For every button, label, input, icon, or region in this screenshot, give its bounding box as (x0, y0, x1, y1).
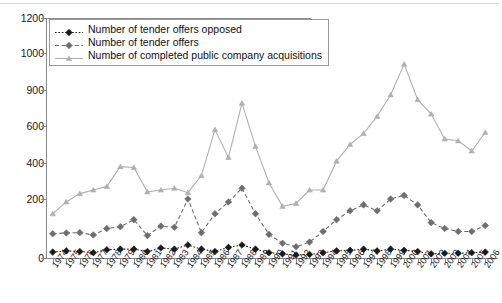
data-point-marker (131, 246, 138, 253)
data-point-marker (441, 225, 448, 232)
data-point-marker (90, 232, 97, 239)
series-2 (49, 185, 488, 250)
data-point-marker (266, 180, 271, 185)
data-point-marker (428, 251, 435, 258)
data-point-marker (320, 228, 327, 235)
data-point-marker (374, 248, 381, 255)
data-point-marker (333, 248, 340, 255)
data-point-marker (347, 247, 354, 254)
data-point-marker (401, 247, 408, 254)
series-1 (49, 242, 488, 259)
data-point-marker (293, 252, 300, 259)
data-point-marker (293, 243, 300, 250)
data-point-marker (185, 196, 192, 203)
data-point-marker (374, 114, 379, 119)
data-point-marker (401, 192, 408, 199)
data-point-marker (415, 97, 420, 102)
data-point-marker (185, 242, 192, 249)
data-point-marker (252, 210, 259, 217)
data-point-marker (455, 250, 462, 257)
data-point-marker (76, 229, 83, 236)
chart-legend: Number of tender offers opposedNumber of… (49, 19, 329, 66)
data-point-marker (455, 228, 462, 235)
legend-diamond-icon (54, 37, 84, 48)
data-point-marker (239, 101, 244, 106)
data-point-marker (401, 62, 406, 67)
data-point-marker (171, 224, 178, 231)
data-point-marker (279, 251, 286, 258)
data-point-marker (63, 230, 70, 237)
data-point-marker (104, 246, 111, 253)
data-point-marker (483, 130, 488, 135)
data-point-marker (333, 216, 340, 223)
data-point-marker (266, 249, 273, 256)
data-point-marker (198, 246, 205, 253)
data-point-marker (414, 202, 421, 209)
data-point-marker (387, 246, 394, 253)
data-point-marker (468, 249, 475, 256)
data-point-marker (117, 223, 124, 230)
data-point-marker (199, 173, 204, 178)
data-point-marker (49, 249, 56, 256)
data-point-marker (468, 228, 475, 235)
data-point-marker (306, 251, 313, 258)
data-point-marker (104, 225, 111, 232)
data-point-marker (320, 249, 327, 256)
legend-diamond-icon (54, 24, 84, 35)
data-point-marker (212, 127, 217, 132)
data-point-marker (171, 246, 178, 253)
data-point-marker (482, 249, 489, 256)
data-point-marker (253, 144, 258, 149)
legend-triangle-icon (54, 50, 84, 61)
data-point-marker (212, 210, 219, 217)
data-point-marker (441, 250, 448, 257)
data-point-marker (252, 246, 259, 253)
data-point-marker (226, 155, 231, 160)
data-point-marker (482, 222, 489, 229)
data-point-marker (117, 246, 124, 253)
legend-item-1: Number of tender offers opposed (54, 23, 322, 36)
data-point-marker (239, 242, 246, 249)
series-3 (50, 62, 488, 216)
data-point-marker (279, 240, 286, 247)
data-point-marker (64, 199, 69, 204)
data-point-marker (158, 223, 165, 230)
data-point-marker (266, 231, 273, 238)
data-point-marker (347, 208, 354, 215)
data-point-marker (388, 92, 393, 97)
data-point-marker (158, 245, 165, 252)
legend-item-2: Number of tender offers (54, 36, 322, 49)
data-point-marker (76, 248, 83, 255)
data-point-marker (414, 248, 421, 255)
legend-item-3: Number of completed public company acqui… (54, 49, 322, 62)
legend-label: Number of tender offers (88, 37, 199, 48)
data-point-marker (144, 248, 151, 255)
data-point-marker (63, 248, 70, 255)
series-line (53, 64, 485, 214)
data-point-marker (225, 244, 232, 251)
data-point-marker (360, 202, 367, 209)
data-point-marker (49, 231, 56, 238)
legend-label: Number of tender offers opposed (88, 24, 242, 35)
data-point-marker (360, 246, 367, 253)
data-point-marker (212, 248, 219, 255)
legend-label: Number of completed public company acqui… (88, 50, 322, 61)
data-point-marker (90, 249, 97, 256)
